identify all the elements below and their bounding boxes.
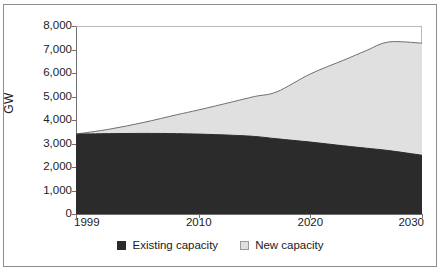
chart-legend: Existing capacity New capacity	[0, 240, 441, 252]
y-tick-label: 2,000	[26, 161, 72, 173]
plot-area	[76, 26, 422, 214]
y-axis-labels: 8,0007,0006,0005,0004,0003,0002,0001,000…	[24, 0, 72, 272]
x-axis-line	[76, 214, 423, 215]
y-axis-title: GW	[2, 92, 16, 113]
legend-swatch-existing-icon	[117, 241, 126, 250]
y-tick-label: 5,000	[26, 91, 72, 103]
y-tick-label: 3,000	[26, 138, 72, 150]
chart-figure: GW 8,0007,0006,0005,0004,0003,0002,0001,…	[0, 0, 441, 272]
y-tick-label: 0	[26, 208, 72, 220]
legend-item-existing: Existing capacity	[117, 240, 218, 252]
x-tick-label: 1999	[74, 217, 100, 229]
legend-item-new: New capacity	[240, 240, 323, 252]
y-tick-label: 4,000	[26, 114, 72, 126]
series-svg	[76, 26, 422, 214]
legend-label-existing: Existing capacity	[132, 240, 218, 252]
y-tick-label: 7,000	[26, 44, 72, 56]
x-tick-label: 2020	[298, 217, 324, 229]
y-tick-label: 6,000	[26, 67, 72, 79]
x-tick-label: 2010	[186, 217, 212, 229]
y-tick-label: 1,000	[26, 185, 72, 197]
legend-swatch-new-icon	[240, 241, 249, 250]
legend-label-new: New capacity	[255, 240, 323, 252]
y-tick-label: 8,000	[26, 20, 72, 32]
x-tick-label: 2030	[398, 217, 424, 229]
